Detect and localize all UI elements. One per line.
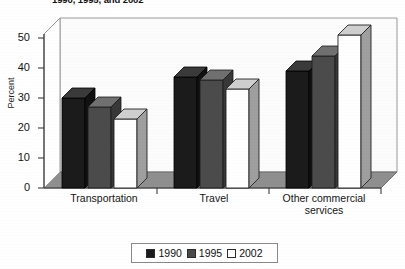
- plot-left-wall: [44, 18, 60, 188]
- legend-entry-2002: 2002: [227, 247, 262, 259]
- category-label-travel: Travel: [180, 193, 248, 205]
- y-tick-label-10: 10: [4, 151, 30, 163]
- y-axis-ticks: [38, 38, 44, 188]
- y-axis-title: Percent: [6, 65, 16, 121]
- bar-chart-figure: 1990, 1995, and 2002: [0, 0, 405, 269]
- bar-other-commercial-services-2002: [338, 25, 371, 188]
- category-label-line-1: Other commercial: [264, 193, 384, 205]
- legend-swatch-icon-1990: [146, 249, 155, 258]
- legend-entry-1990: 1990: [146, 247, 181, 259]
- category-label-line-2: services: [264, 205, 384, 217]
- legend-swatch-icon-2002: [227, 249, 236, 258]
- chart-legend: 1990 1995 2002: [131, 243, 278, 263]
- y-tick-label-0: 0: [4, 181, 30, 193]
- category-label-other-commercial-services: Other commercial services: [264, 193, 384, 216]
- y-tick-label-50: 50: [4, 31, 30, 43]
- legend-label-1990: 1990: [158, 247, 181, 259]
- y-tick-label-20: 20: [4, 121, 30, 133]
- bar-transportation-2002: [114, 109, 147, 188]
- plot-area: [0, 0, 405, 200]
- legend-label-2002: 2002: [239, 247, 262, 259]
- legend-swatch-icon-1995: [187, 249, 196, 258]
- category-label-transportation: Transportation: [44, 193, 164, 205]
- legend-label-1995: 1995: [199, 247, 222, 259]
- legend-entry-1995: 1995: [187, 247, 222, 259]
- bar-travel-2002: [226, 79, 259, 188]
